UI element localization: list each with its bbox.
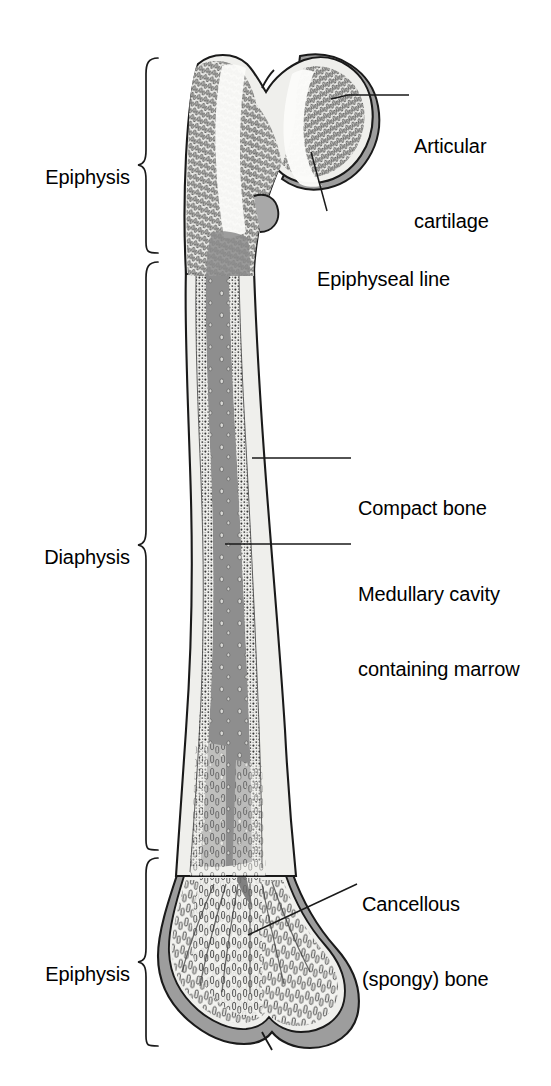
region-label-text: Diaphysis	[44, 546, 130, 568]
bone-anatomy-figure: Epiphysis Diaphysis Epiphysis Articular …	[0, 0, 551, 1086]
region-label-epiphysis-proximal: Epiphysis	[18, 140, 130, 215]
callout-line-1: Medullary cavity	[358, 582, 520, 607]
diaphysis-shaft	[176, 270, 296, 880]
brace-diaphysis	[138, 262, 158, 850]
callout-cancellous-bone: Cancellous (spongy) bone	[362, 842, 489, 1042]
distal-epiphysis	[158, 860, 359, 1050]
distal-cancellous-bone	[172, 860, 338, 1026]
brace-epiphysis-proximal	[138, 58, 158, 253]
callout-epiphyseal-line: Epiphyseal line	[317, 217, 450, 342]
callout-medullary-cavity: Medullary cavity containing marrow	[358, 532, 520, 732]
callout-line-1: Cancellous	[362, 892, 489, 917]
brace-epiphysis-distal	[138, 858, 158, 1046]
callout-line-1: Epiphyseal line	[317, 267, 450, 292]
region-braces	[138, 58, 158, 1046]
callout-line-1: Articular	[414, 134, 489, 159]
callout-line-2: containing marrow	[358, 657, 520, 682]
region-label-diaphysis: Diaphysis	[18, 520, 130, 595]
region-label-text: Epiphysis	[45, 963, 130, 985]
region-label-epiphysis-distal: Epiphysis	[18, 937, 130, 1012]
region-label-text: Epiphysis	[45, 166, 130, 188]
callout-line-2: (spongy) bone	[362, 967, 489, 992]
callout-line-1: Compact bone	[358, 496, 487, 521]
